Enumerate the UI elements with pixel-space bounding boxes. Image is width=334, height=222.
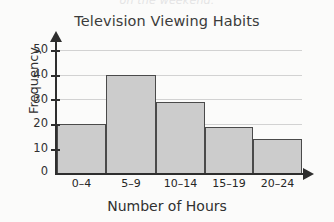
y-tick-mark-50 [51, 50, 60, 52]
bar-5-9 [106, 75, 156, 174]
gridline-40 [57, 75, 302, 76]
y-tick-label-10: 10 [8, 143, 48, 155]
x-tick-label-20-24: 20–24 [253, 178, 302, 189]
x-axis-arrow-icon [303, 168, 314, 180]
bar-0-4 [57, 124, 106, 174]
y-axis-title: Frequency [26, 31, 41, 131]
y-axis-line [55, 40, 57, 174]
y-tick-mark-30 [51, 99, 60, 101]
y-tick-mark-10 [51, 149, 60, 151]
y-axis-arrow-icon [50, 31, 62, 42]
x-axis-title: Number of Hours [0, 198, 334, 214]
x-axis-line [55, 173, 305, 175]
gridline-50 [57, 50, 302, 51]
bar-15-19 [205, 127, 253, 174]
bar-10-14 [156, 102, 205, 174]
x-tick-label-15-19: 15–19 [205, 178, 253, 189]
y-tick-mark-20 [51, 124, 60, 126]
gridline-30 [57, 99, 302, 100]
x-tick-label-5-9: 5–9 [106, 178, 156, 189]
x-tick-label-10-14: 10–14 [156, 178, 205, 189]
y-tick-mark-40 [51, 75, 60, 77]
bar-20-24 [253, 139, 302, 174]
y-tick-label-0: 0 [8, 166, 48, 178]
plot-area: 50 40 30 20 10 0 Frequency 0–4 5–9 10–14… [0, 0, 334, 222]
histogram-screenshot: on the weekend. Television Viewing Habit… [0, 0, 334, 222]
x-tick-label-0-4: 0–4 [57, 178, 106, 189]
